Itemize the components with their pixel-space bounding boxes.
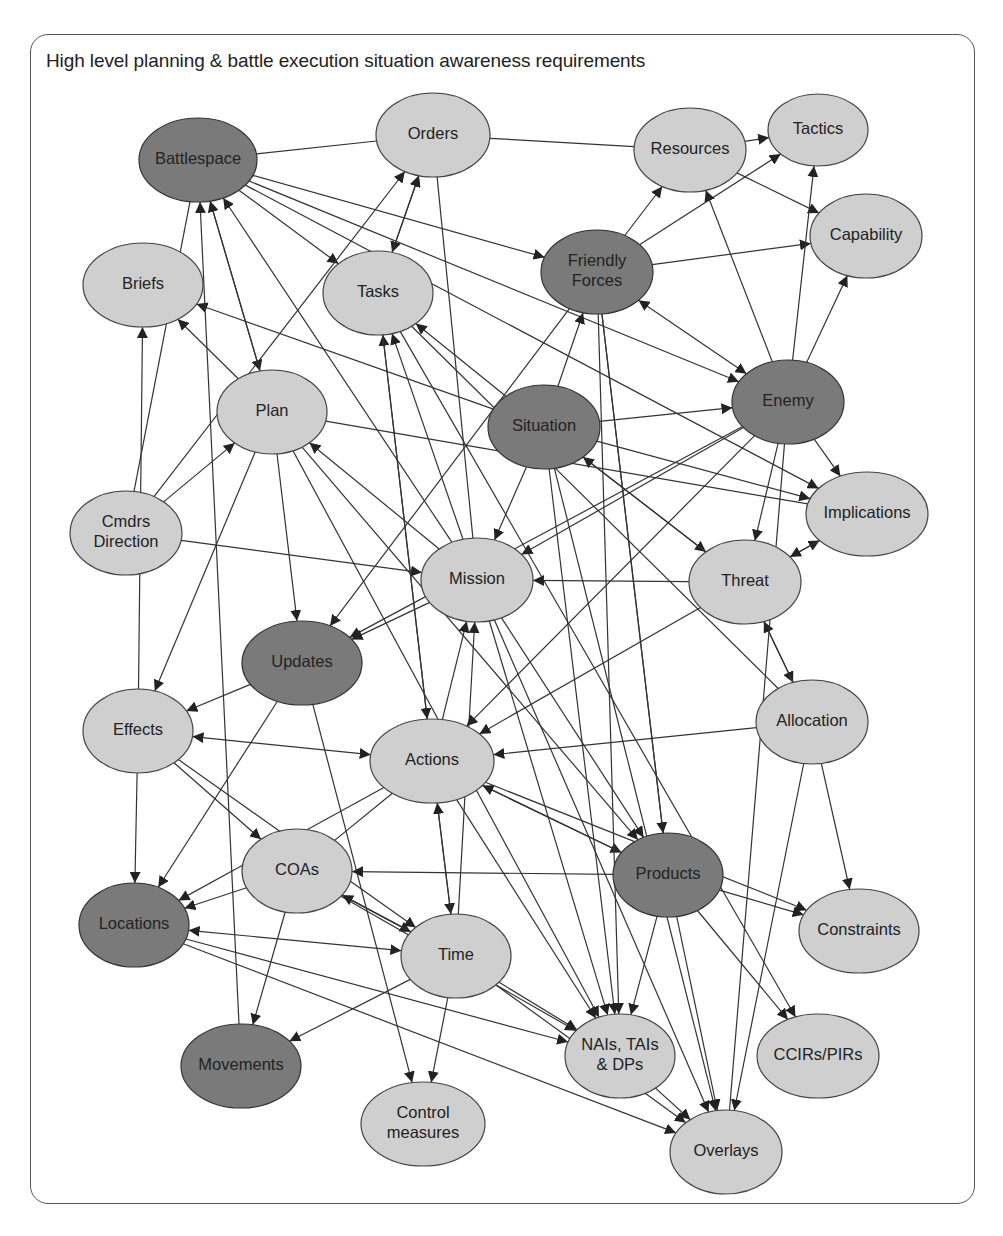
edge-coas-to-actions — [335, 793, 393, 840]
edge-enemy-to-tactics — [793, 166, 814, 360]
node-time: Time — [401, 914, 511, 998]
node-label: Time — [438, 945, 474, 963]
edge-time-to-actions — [437, 803, 451, 914]
node-briefs: Briefs — [83, 243, 203, 327]
edge-enemy-to-threat — [755, 443, 778, 540]
node-capability: Capability — [810, 194, 922, 278]
node-allocation: Allocation — [756, 680, 868, 764]
edge-effects-to-locations — [135, 773, 137, 883]
edge-time-to-nais — [499, 982, 577, 1030]
node-label: Locations — [99, 914, 170, 932]
edge-effects-to-actions — [193, 737, 371, 755]
edge-friendly-to-capability — [652, 243, 811, 264]
edge-battlespace-to-orders — [256, 141, 376, 154]
node-enemy: Enemy — [732, 360, 844, 444]
edge-tasks-to-actions — [383, 335, 427, 719]
edge-allocation-to-threat — [764, 622, 793, 683]
node-nais: NAIs, TAIs& DPs — [565, 1014, 675, 1098]
edge-cmdrs-to-plan — [164, 443, 235, 502]
node-label: Updates — [271, 652, 332, 670]
node-mission: Mission — [421, 538, 533, 622]
node-label: Situation — [512, 416, 576, 434]
node-label: Capability — [830, 225, 903, 243]
node-label: measures — [387, 1123, 459, 1141]
node-products: Products — [613, 833, 723, 917]
node-constraints: Constraints — [799, 889, 919, 973]
node-label: Friendly — [568, 251, 627, 269]
edge-situation-to-tasks — [416, 324, 506, 397]
node-movements: Movements — [181, 1024, 301, 1108]
edge-enemy-to-capability — [807, 276, 848, 363]
node-label: Enemy — [762, 391, 814, 409]
edge-actions-to-mission — [442, 621, 466, 719]
edge-mission-to-updates — [352, 602, 430, 639]
edge-time-to-locations — [189, 930, 402, 950]
edge-products-to-nais — [631, 916, 657, 1015]
node-label: CCIRs/PIRs — [774, 1045, 863, 1063]
node-label: Orders — [408, 124, 458, 142]
edge-plan-to-battlespace — [210, 201, 260, 371]
edge-enemy-to-implications — [814, 439, 840, 476]
node-tasks: Tasks — [323, 251, 433, 335]
edge-threat-to-situation — [583, 457, 706, 552]
node-label: Resources — [651, 139, 730, 157]
node-label: Tactics — [793, 119, 843, 137]
edge-orders-to-resources — [490, 138, 634, 146]
node-plan: Plan — [217, 370, 327, 454]
edge-allocation-to-tasks — [412, 326, 779, 688]
node-control: Controlmeasures — [361, 1082, 485, 1166]
edge-resources-to-capability — [737, 173, 819, 213]
node-effects: Effects — [83, 689, 193, 773]
edge-products-to-constraints — [719, 890, 803, 915]
edge-effects-to-coas — [174, 763, 261, 840]
edge-battlespace-to-enemy — [249, 181, 739, 382]
node-label: Movements — [198, 1055, 283, 1073]
edge-time-to-movements — [289, 979, 410, 1041]
node-label: Constraints — [817, 920, 900, 938]
node-label: Forces — [572, 271, 622, 289]
edge-coas-to-locations — [185, 888, 247, 909]
edge-mission-to-plan — [310, 443, 440, 549]
edge-products-to-ccirs — [697, 911, 787, 1020]
edge-implications-to-threat — [790, 540, 820, 557]
node-implications: Implications — [806, 472, 928, 556]
node-label: Allocation — [776, 711, 848, 729]
node-threat: Threat — [689, 540, 801, 624]
node-updates: Updates — [242, 621, 362, 705]
node-label: Products — [635, 864, 700, 882]
node-tactics: Tactics — [768, 94, 868, 166]
node-overlays: Overlays — [670, 1110, 782, 1194]
edge-tasks-to-orders — [392, 176, 419, 253]
node-label: Battlespace — [155, 149, 241, 167]
edge-updates-to-effects — [186, 684, 250, 711]
node-label: Cmdrs — [102, 512, 151, 530]
node-label: Tasks — [357, 282, 399, 300]
edge-situation-to-friendly — [558, 313, 583, 387]
node-label: Plan — [255, 401, 288, 419]
node-ccirs: CCIRs/PIRs — [757, 1014, 879, 1098]
node-label: Briefs — [122, 274, 164, 292]
nodes-layer: OrdersBattlespaceResourcesTacticsCapabil… — [70, 93, 928, 1194]
node-label: Mission — [449, 569, 505, 587]
edge-enemy-to-resources — [706, 190, 773, 361]
edge-situation-to-overlays — [554, 468, 715, 1110]
node-friendly: FriendlyForces — [541, 230, 653, 314]
edge-products-to-coas — [352, 872, 613, 875]
node-coas: COAs — [242, 829, 352, 913]
edge-plan-to-updates — [277, 454, 297, 621]
node-resources: Resources — [634, 108, 746, 192]
edge-friendly-to-resources — [625, 187, 662, 236]
node-label: Overlays — [693, 1141, 758, 1159]
node-battlespace: Battlespace — [139, 118, 257, 202]
node-label: Effects — [113, 720, 163, 738]
node-situation: Situation — [488, 385, 600, 469]
edge-situation-to-enemy — [600, 408, 733, 422]
node-label: Threat — [721, 571, 769, 589]
edge-plan-to-effects — [155, 452, 255, 691]
node-label: COAs — [275, 860, 319, 878]
edge-coas-to-movements — [253, 912, 285, 1025]
edge-battlespace-to-friendly — [253, 175, 545, 257]
node-orders: Orders — [376, 93, 490, 177]
edge-time-to-coas — [342, 895, 411, 932]
node-cmdrs: CmdrsDirection — [70, 491, 182, 575]
